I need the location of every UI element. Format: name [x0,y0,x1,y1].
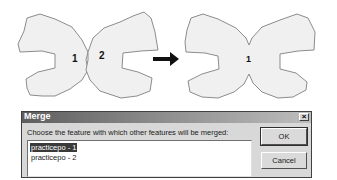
close-button[interactable]: × [299,113,309,121]
feature-listbox[interactable]: practicepo - 1 practicepo - 2 [27,140,252,177]
ok-button[interactable]: OK [261,128,307,145]
feature-label-2: 2 [99,50,105,61]
merge-diagram: 1 2 1 [0,0,337,105]
list-item[interactable]: practicepo - 2 [30,153,77,162]
dialog-title: Merge [24,111,51,121]
list-item[interactable]: practicepo - 1 [30,143,77,152]
right-arrow-icon [153,52,179,66]
cancel-button[interactable]: Cancel [261,152,307,169]
feature-label-1: 1 [72,53,78,64]
dialog-prompt: Choose the feature with which other feat… [27,128,228,137]
close-icon: × [302,112,307,121]
merged-feature-label: 1 [246,54,251,64]
dialog-titlebar[interactable]: Merge × [22,112,311,123]
polygon-feature-2 [86,12,158,98]
merge-illustration: 1 2 1 [0,0,337,105]
merge-dialog: Merge × Choose the feature with which ot… [21,111,312,178]
